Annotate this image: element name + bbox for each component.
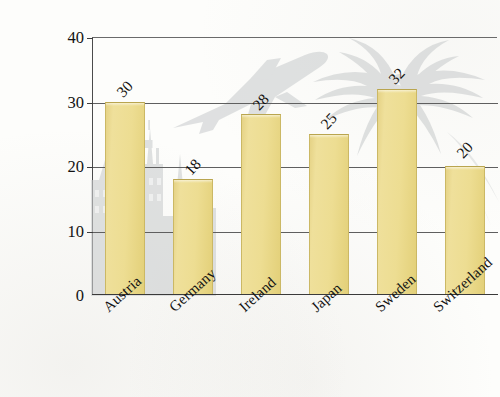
vacation-days-bar-chart: Number of Vacation Days — [0, 0, 500, 397]
gridline-10 — [93, 232, 498, 233]
y-tickmark-20 — [87, 167, 93, 168]
gridline-20 — [93, 167, 498, 168]
value-label-austria: 30 — [113, 77, 137, 101]
bar-ireland — [241, 114, 281, 295]
y-tick-label-20: 20 — [68, 157, 85, 177]
y-tick-label-10: 10 — [68, 221, 85, 241]
bar-austria — [105, 102, 145, 296]
y-tick-label-0: 0 — [76, 286, 84, 306]
value-label-ireland: 28 — [249, 90, 273, 114]
y-tick-label-30: 30 — [68, 92, 85, 112]
y-tickmark-10 — [87, 232, 93, 233]
y-tickmark-40 — [87, 38, 93, 39]
value-label-switzerland: 20 — [453, 138, 477, 162]
y-tick-label-40: 40 — [68, 28, 85, 48]
bar-japan — [309, 134, 349, 295]
gridline-30 — [93, 103, 498, 104]
value-label-germany: 18 — [181, 155, 205, 179]
plot-area: 40 30 20 10 0 30 18 28 25 32 20 — [92, 37, 497, 295]
bar-sweden — [377, 89, 417, 295]
value-label-sweden: 32 — [385, 64, 409, 88]
value-label-japan: 25 — [317, 109, 341, 133]
y-tickmark-30 — [87, 103, 93, 104]
